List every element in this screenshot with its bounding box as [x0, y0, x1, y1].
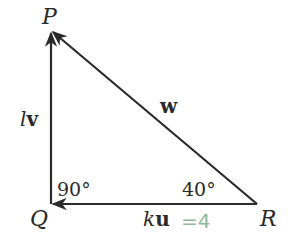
handwritten-annotation: =4 [181, 209, 210, 233]
vertex-label-q: Q [30, 206, 48, 231]
vertex-label-p: P [41, 4, 58, 29]
vector-triangle-diagram: P Q R lv w ku =4 90° 40° [0, 0, 290, 245]
scalar-k: k [143, 207, 155, 231]
edge-label-ku: ku [143, 207, 170, 231]
vertex-label-r: R [259, 206, 277, 231]
edge-label-w: w [159, 94, 178, 118]
angle-label-r: 40° [182, 178, 216, 200]
angle-label-q: 90° [57, 178, 91, 200]
vector-v: v [25, 107, 39, 131]
vector-u: u [155, 207, 170, 231]
edge-label-lv: lv [20, 107, 39, 131]
